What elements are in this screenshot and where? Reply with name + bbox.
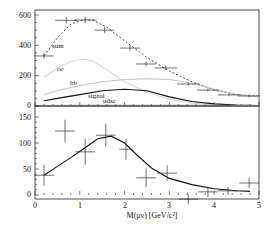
sum-label: sum [52, 42, 64, 50]
top-data-point [197, 89, 219, 92]
top-data-point [155, 66, 177, 71]
bottom-data-point [136, 168, 156, 187]
top-ytick-label: 200 [19, 71, 31, 80]
bottom-data-point [198, 187, 218, 197]
bottom-ytick-label: 100 [19, 139, 31, 148]
top-data-point [34, 53, 54, 58]
xtick-label: 3 [167, 201, 171, 210]
bottom-panel: 0 50 100 150 0 1 2 3 4 5 M(μν) [GeV/c²] [19, 106, 261, 220]
xtick-label: 4 [212, 201, 216, 210]
signal-fit-curve [44, 136, 250, 191]
top-ytick-label: 600 [19, 11, 31, 20]
bottom-ytick-label: 50 [23, 165, 31, 174]
bottom-curves [44, 136, 250, 191]
top-data-point [95, 27, 115, 33]
xtick-label: 2 [123, 201, 127, 210]
bottom-data-points [34, 120, 259, 205]
top-panel: 0 200 400 600 sum cc bb signal udsc [19, 10, 260, 110]
x-axis-title: M(μν) [GeV/c²] [127, 211, 178, 220]
xtick-label: 0 [33, 201, 37, 210]
top-data-point [218, 94, 240, 97]
top-data-point [136, 62, 156, 67]
bottom-data-point [157, 165, 177, 181]
bb-label: bb [70, 79, 78, 87]
top-data-point [177, 82, 199, 86]
bottom-data-point [55, 120, 75, 143]
top-ytick-label: 400 [19, 41, 31, 50]
bottom-data-point [218, 187, 238, 195]
udsc-label: udsc [103, 97, 116, 105]
xtick-label: 5 [257, 201, 261, 210]
top-ytick-label: 0 [27, 101, 31, 110]
top-curves [44, 20, 259, 106]
bottom-data-point [178, 194, 198, 204]
bottom-data-point [119, 139, 132, 160]
top-labels: 0 200 400 600 sum cc bb signal udsc [19, 11, 116, 110]
top-data-points [34, 17, 260, 98]
xtick-label: 1 [78, 201, 82, 210]
bottom-ytick-label: 150 [19, 113, 31, 122]
bottom-data-point [96, 124, 116, 147]
bottom-panel-frame [35, 106, 259, 199]
bottom-ytick-label: 0 [27, 190, 31, 199]
bottom-axis-ticks [35, 117, 259, 195]
chart: 0 200 400 600 sum cc bb signal udsc 0 50… [0, 0, 275, 227]
bottom-data-point [34, 165, 54, 186]
bottom-data-point [239, 178, 259, 188]
cc-label: cc [57, 65, 63, 73]
bottom-labels: 0 50 100 150 0 1 2 3 4 5 M(μν) [GeV/c²] [19, 113, 261, 220]
